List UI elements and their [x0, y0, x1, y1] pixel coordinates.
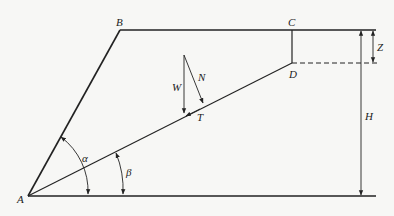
- slope-diagram: B C D A T W N α β Z H: [0, 0, 394, 216]
- label-beta: β: [125, 166, 132, 178]
- angle-alpha-arc: [61, 137, 88, 194]
- label-c: C: [288, 16, 296, 28]
- label-h: H: [364, 110, 374, 122]
- label-t: T: [197, 111, 204, 123]
- label-alpha: α: [82, 152, 88, 164]
- label-d: D: [288, 68, 297, 80]
- slope-face-ab: [28, 30, 120, 196]
- label-w: W: [172, 81, 182, 93]
- label-b: B: [116, 16, 123, 28]
- label-z: Z: [377, 41, 384, 53]
- label-a: A: [16, 193, 24, 205]
- label-n: N: [197, 71, 206, 83]
- failure-plane-ad: [28, 63, 292, 196]
- angle-beta-arc: [116, 153, 123, 194]
